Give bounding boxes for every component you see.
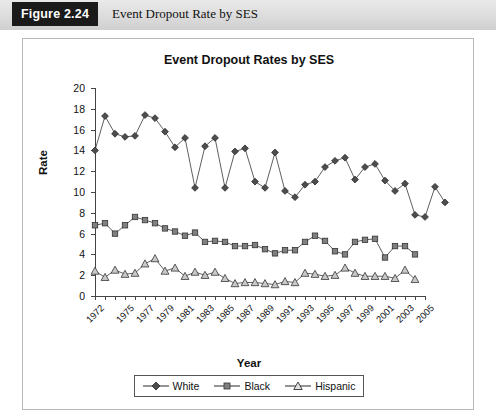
data-point	[232, 243, 237, 248]
data-point	[191, 268, 199, 275]
data-point	[122, 223, 127, 228]
data-point	[362, 237, 367, 242]
data-point	[91, 267, 99, 274]
data-point	[272, 149, 279, 156]
data-point	[382, 255, 387, 260]
data-point	[111, 266, 119, 273]
data-point	[412, 252, 417, 257]
y-tick-label: 10	[63, 186, 85, 198]
data-point	[141, 260, 149, 267]
data-point	[332, 249, 337, 254]
data-point	[102, 221, 107, 226]
y-tick-label: 8	[63, 207, 85, 219]
data-point	[172, 229, 177, 234]
figure-header-band: Figure 2.24 Event Dropout Rate by SES	[0, 0, 496, 30]
data-point	[282, 248, 287, 253]
y-tick-label: 18	[63, 103, 85, 115]
data-point	[392, 243, 397, 248]
data-point	[112, 231, 117, 236]
data-point	[142, 217, 147, 222]
data-point	[222, 184, 229, 191]
series-white	[92, 112, 449, 221]
legend-marker-triangle-icon	[285, 380, 311, 392]
chart-panel: Event Dropout Rates by SES Rate 02468101…	[22, 38, 474, 410]
data-point	[222, 239, 227, 244]
data-point	[122, 133, 129, 140]
data-point	[351, 269, 359, 276]
data-point	[432, 183, 439, 190]
figure-caption: Event Dropout Rate by SES	[112, 2, 258, 26]
x-axis-label: Year	[23, 357, 475, 369]
data-point	[252, 178, 259, 185]
y-tick-label: 2	[63, 269, 85, 281]
legend-marker-diamond-icon	[143, 380, 169, 392]
data-point	[242, 243, 247, 248]
legend-label-black: Black	[244, 380, 270, 392]
data-point	[102, 113, 109, 120]
y-axis-label: Rate	[37, 150, 49, 175]
y-tick-label: 12	[63, 165, 85, 177]
legend-label-white: White	[173, 380, 200, 392]
y-tick-label: 20	[63, 82, 85, 94]
data-point	[152, 221, 157, 226]
data-point	[171, 264, 179, 271]
data-point	[312, 233, 317, 238]
data-point	[101, 273, 109, 280]
data-point	[372, 161, 379, 168]
plot-area	[95, 88, 435, 303]
data-point	[151, 255, 159, 262]
data-point	[322, 238, 327, 243]
data-point	[322, 164, 329, 171]
series-hispanic	[91, 255, 419, 288]
data-point	[162, 226, 167, 231]
y-tick-label: 4	[63, 248, 85, 260]
data-point	[341, 264, 349, 271]
chart-legend: White Black Hispanic	[134, 375, 364, 397]
data-point	[212, 238, 217, 243]
series-line	[95, 115, 445, 217]
data-point	[352, 239, 357, 244]
y-tick-label: 14	[63, 144, 85, 156]
data-point	[312, 178, 319, 185]
data-point	[401, 266, 409, 273]
chart-title: Event Dropout Rates by SES	[23, 53, 475, 67]
data-point	[152, 115, 159, 122]
data-point	[301, 269, 309, 276]
data-point	[221, 274, 229, 281]
data-point	[211, 268, 219, 275]
legend-label-hispanic: Hispanic	[315, 380, 355, 392]
data-point	[182, 233, 187, 238]
data-point	[201, 271, 209, 278]
data-point	[331, 271, 339, 278]
x-tick-label: 1972	[78, 303, 106, 331]
y-tick-label: 16	[63, 124, 85, 136]
series-black	[92, 214, 417, 260]
data-point	[192, 230, 197, 235]
data-point	[292, 248, 297, 253]
data-point	[422, 214, 429, 221]
data-point	[132, 214, 137, 219]
figure-number-tag: Figure 2.24	[12, 2, 98, 26]
data-point	[272, 251, 277, 256]
data-point	[162, 128, 169, 135]
data-point	[412, 211, 419, 218]
data-point	[281, 278, 289, 285]
legend-item-hispanic[interactable]: Hispanic	[285, 380, 355, 392]
data-point	[92, 147, 99, 154]
y-tick-label: 6	[63, 228, 85, 240]
figure-page: Figure 2.24 Event Dropout Rate by SES Ev…	[0, 0, 496, 420]
data-point	[92, 223, 97, 228]
data-point	[142, 112, 149, 119]
data-point	[262, 184, 269, 191]
data-point	[282, 188, 289, 195]
data-point	[332, 157, 339, 164]
legend-marker-square-icon	[214, 380, 240, 392]
y-tick-label: 0	[63, 290, 85, 302]
legend-item-white[interactable]: White	[143, 380, 200, 392]
legend-item-black[interactable]: Black	[214, 380, 270, 392]
data-point	[202, 239, 207, 244]
data-point	[232, 148, 239, 155]
data-point	[262, 247, 267, 252]
data-point	[132, 132, 139, 139]
data-point	[372, 236, 377, 241]
